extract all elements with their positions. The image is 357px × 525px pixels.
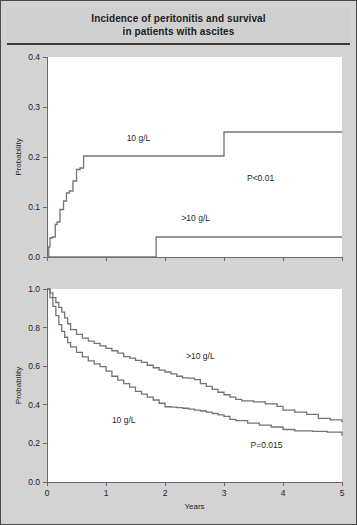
y-axis-title: Probability [14,138,23,175]
incidence-chart-svg: 0.00.10.20.30.4Probability10 g/L>10 g/LP… [7,47,350,275]
y-axis-tick-label: 0.3 [28,102,40,112]
y-axis-tick-label: 0.8 [28,323,40,333]
annotation-label: 10 g/L [112,415,136,425]
y-axis-tick-label: 0.2 [28,152,40,162]
plot-background [47,289,342,482]
x-axis-title: Years [184,502,204,511]
y-axis-tick-label: 0.4 [28,52,40,62]
x-axis-tick-label: 2 [163,488,168,498]
annotation-label: >10 g/L [186,351,215,361]
y-axis-tick-label: 0.0 [28,477,40,487]
x-axis-tick-label: 3 [222,488,227,498]
x-axis-tick-label: 0 [45,488,50,498]
y-axis-tick-label: 0.1 [28,202,40,212]
x-axis-tick-label: 4 [281,488,286,498]
y-axis-tick-label: 0.4 [28,400,40,410]
y-axis-tick-label: 1.0 [28,284,40,294]
annotation-label: P<0.01 [247,173,274,183]
y-axis-title: Probability [14,367,23,404]
figure-container: Incidence of peritonitis and survival in… [0,0,357,525]
survival-chart-svg: 0.00.20.40.60.81.0012345ProbabilityYears… [7,277,350,520]
y-axis-tick-label: 0.0 [28,252,40,262]
annotation-label: P=0.015 [251,440,283,450]
plot-background [47,57,342,257]
x-axis-tick-label: 1 [104,488,109,498]
figure-title-line-2: in patients with ascites [123,25,235,38]
y-axis-tick-label: 0.2 [28,438,40,448]
x-axis-tick-label: 5 [340,488,345,498]
survival-chart-panel: 0.00.20.40.60.81.0012345ProbabilityYears… [7,277,350,520]
incidence-chart-panel: 0.00.10.20.30.4Probability10 g/L>10 g/LP… [7,47,350,275]
annotation-label: >10 g/L [181,213,210,223]
annotation-label: 10 g/L [127,133,151,143]
figure-title-band: Incidence of peritonitis and survival in… [7,7,350,45]
figure-title-line-1: Incidence of peritonitis and survival [91,12,265,25]
y-axis-tick-label: 0.6 [28,361,40,371]
